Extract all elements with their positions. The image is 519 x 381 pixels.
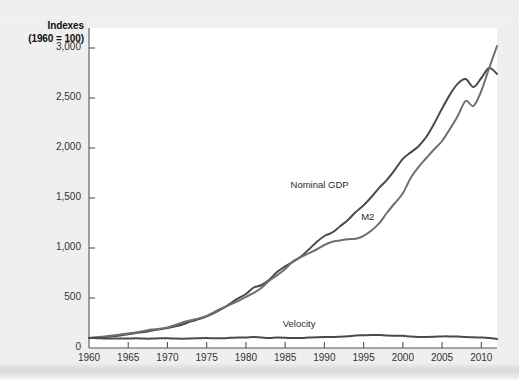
series-line-m2 xyxy=(89,46,497,338)
chart-svg xyxy=(0,0,519,381)
page-bottom-edge xyxy=(0,363,519,381)
axes-group xyxy=(89,28,497,348)
series-line-velocity xyxy=(89,335,497,339)
series-group xyxy=(89,46,497,339)
chart-figure: Indexes (1960 = 100) 05001,0001,5002,000… xyxy=(0,0,519,381)
series-line-nominal-gdp xyxy=(89,68,497,338)
